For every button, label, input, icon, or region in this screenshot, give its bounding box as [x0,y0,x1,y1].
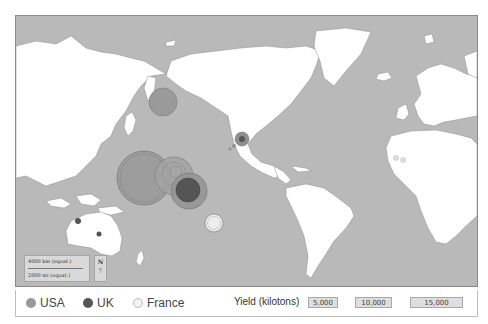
north-arrow-icon: ↑ [95,268,106,275]
legend-item-usa[interactable]: USA [26,295,65,311]
legend-label-uk: UK [97,296,114,310]
north-label: N [95,258,106,265]
france-dot-icon [133,298,143,308]
yield-10000-button[interactable]: 10,000 [355,297,392,308]
marker-usa-nevada-small[interactable] [232,144,236,148]
scale-mi-label: 2000 mi (equat.) [28,272,70,278]
marker-usa-nevada-small-2[interactable] [229,148,232,151]
scale-km-bar [28,268,83,269]
marker-uk-montebello[interactable] [75,218,81,224]
legend-item-uk[interactable]: UK [83,295,114,311]
marker-france-inekker[interactable] [401,158,406,163]
map-canvas[interactable] [16,16,477,286]
world-map[interactable]: 4000 km (equat.) 2000 mi (equat.) N ↑ [15,15,478,287]
land-layer [16,28,477,278]
marker-france-reggane[interactable] [394,156,399,161]
yield-title: Yield (kilotons) [234,296,299,307]
marker-uk-maralinga[interactable] [97,232,102,237]
yield-15000-button[interactable]: 15,000 [410,297,463,308]
legend-item-france[interactable]: France [133,295,184,311]
marker-usa-nevada-core [239,136,245,142]
marker-uk-christmas[interactable] [176,178,200,202]
scale-bar: 4000 km (equat.) 2000 mi (equat.) [24,255,90,282]
legend-label-france: France [147,296,184,310]
legend: USA UK France Yield (kilotons) 5,000 10,… [15,290,478,317]
marker-usa-aleutians[interactable] [149,88,177,116]
uk-dot-icon [83,298,93,308]
usa-dot-icon [26,298,36,308]
north-indicator: N ↑ [94,255,107,282]
yield-5000-button[interactable]: 5,000 [308,297,338,308]
legend-label-usa: USA [40,296,65,310]
scale-km-label: 4000 km (equat.) [28,258,72,264]
